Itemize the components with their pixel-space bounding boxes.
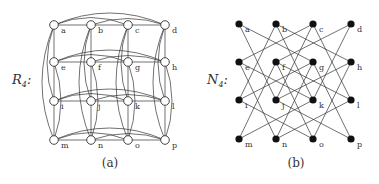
node-p [161,136,170,145]
node-label-m: m [245,140,253,149]
node-label-n: n [98,141,103,150]
caption-a: (a) [102,156,119,170]
node-label-d: d [357,25,362,34]
node-label-g: g [319,63,324,72]
node-label-h: h [357,63,362,72]
node-b [272,20,279,27]
graph-label-n4: N4: [206,72,228,89]
node-label-a: a [245,25,250,34]
rook-graph-nodes: abcdefghijklmnop [50,21,177,150]
node-m [235,135,242,142]
node-g [309,58,316,65]
node-l [347,96,354,103]
node-label-j: j [97,102,100,111]
node-j [272,96,279,103]
node-label-g: g [135,63,140,72]
node-label-e: e [245,63,250,72]
node-g [124,58,133,67]
node-h [161,58,170,67]
node-a [235,20,242,27]
node-label-c: c [135,26,140,35]
node-label-a: a [61,26,66,35]
node-f [87,58,96,67]
node-o [309,135,316,142]
node-label-l: l [172,102,175,111]
node-label-k: k [319,101,324,110]
node-label-n: n [282,140,287,149]
node-c [124,21,133,30]
node-label-m: m [61,141,69,150]
node-d [347,20,354,27]
node-label-f: f [98,63,102,72]
node-label-c: c [319,25,324,34]
node-l [161,97,170,106]
rook-graph-panel: abcdefghijklmnop R4: (a) [11,13,177,170]
knight-graph-panel: abcdefghijklmnop N4: (b) [206,20,362,170]
node-n [272,135,279,142]
node-label-b: b [98,26,103,35]
node-a [50,21,59,30]
node-label-i: i [61,102,64,111]
node-label-d: d [172,26,177,35]
node-k [309,96,316,103]
node-c [309,20,316,27]
graph-label-r4: R4: [11,72,31,89]
node-e [235,58,242,65]
node-b [87,21,96,30]
node-p [347,135,354,142]
node-label-f: f [282,63,286,72]
node-label-l: l [357,101,360,110]
node-label-k: k [135,102,140,111]
node-d [161,21,170,30]
node-f [272,58,279,65]
node-label-p: p [172,141,177,150]
node-k [124,97,133,106]
node-label-o: o [135,141,140,150]
node-o [124,136,133,145]
node-label-e: e [61,63,66,72]
node-label-i: i [245,101,248,110]
node-j [87,97,96,106]
caption-b: (b) [287,156,304,170]
node-e [50,58,59,67]
node-m [50,136,59,145]
node-h [347,58,354,65]
node-n [87,136,96,145]
node-i [50,97,59,106]
node-label-b: b [282,25,287,34]
node-label-j: j [281,101,284,110]
node-label-p: p [357,140,362,149]
node-label-o: o [319,140,324,149]
knight-graph-edges [239,24,351,139]
node-label-h: h [172,63,177,72]
figure: abcdefghijklmnop R4: (a) abcdefghijklmno… [0,0,379,184]
node-i [235,96,242,103]
